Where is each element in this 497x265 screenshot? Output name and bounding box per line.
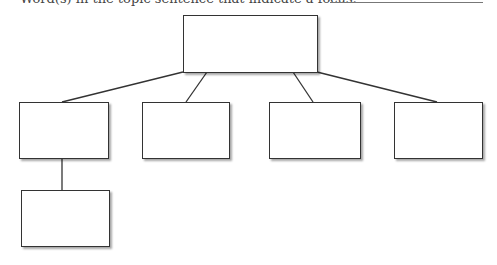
child-box-1[interactable] — [19, 102, 109, 159]
grandchild-box-1[interactable] — [21, 190, 110, 247]
child-box-4[interactable] — [394, 102, 483, 159]
child-box-3[interactable] — [269, 102, 361, 159]
child-box-2[interactable] — [142, 102, 230, 159]
root-box[interactable] — [183, 15, 318, 73]
edge-root-child-4 — [317, 72, 437, 102]
edge-root-child-1 — [62, 72, 183, 102]
edge-root-child-3 — [293, 72, 313, 102]
edge-root-child-2 — [186, 72, 207, 102]
